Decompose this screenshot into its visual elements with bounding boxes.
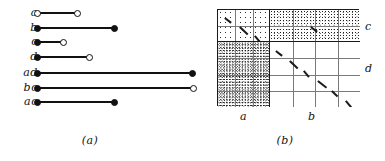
gridline-horizontal [218,91,269,92]
axis-label-c: c [365,20,372,33]
caption-a: (a) [60,134,120,147]
gridline-horizontal [270,26,360,27]
interval-endpoint-start [34,99,41,106]
interval-endpoint-start [34,85,41,92]
interval-bar [38,72,193,74]
interval-endpoint-end [111,99,118,106]
interval-row: d [0,50,200,64]
interval-endpoint-start [34,25,41,32]
gridline-horizontal [218,26,269,27]
axis-label-d: d [365,62,373,75]
interval-label: d [0,50,38,63]
diagonal-tick [239,26,248,35]
interval-label: b [0,21,38,34]
interval-endpoint-end [86,54,93,61]
grid-quadrant-ad [218,42,270,107]
gridline-horizontal [270,91,360,92]
interval-label: c [0,35,38,48]
diagonal-tick [290,60,299,69]
interval-row: bc [0,81,200,95]
gridline-horizontal [270,75,360,76]
grid-quadrant-bc [270,10,360,42]
gridline-horizontal [270,58,360,59]
panel-a-intervals: abcdadbcac (a) [0,0,200,161]
interval-bar [38,87,194,89]
interval-endpoint-start [34,54,41,61]
interval-row: ad [0,66,200,80]
axis-label-b: b [308,110,316,123]
interval-endpoint-start [34,70,41,77]
interval-label: ac [0,95,38,108]
figure-container: abcdadbcac (a) a b c d (b) [0,0,385,161]
interval-endpoint-end [74,10,81,17]
interval-endpoint-start [34,39,41,46]
diagonal-tick [276,50,283,56]
gridline-horizontal [218,75,269,76]
interval-row: ac [0,95,200,109]
interval-row: c [0,35,200,49]
gridline-horizontal [218,58,269,59]
interval-bar [38,27,115,29]
grid-quadrant-bd [270,42,360,107]
diagonal-tick [345,100,353,107]
interval-endpoint-start [34,10,41,17]
interval-bar [38,101,115,103]
interval-label: a [0,6,38,19]
grid-quadrant-ac [218,10,270,42]
axis-label-a: a [240,110,247,123]
interval-endpoint-end [60,39,67,46]
panel-b-grid: a b c d (b) [200,0,385,161]
interval-endpoint-end [190,85,197,92]
diagonal-tick [303,70,309,77]
diagonal-tick [317,80,327,88]
interval-label: bc [0,81,38,94]
diagonal-tick [225,17,232,23]
interval-endpoint-end [189,70,196,77]
interval-row: a [0,6,200,20]
grid-frame [217,9,359,106]
interval-bar [38,12,78,14]
interval-bar [38,56,90,58]
interval-label: ad [0,66,38,79]
diagonal-tick [254,35,260,42]
interval-endpoint-end [111,25,118,32]
interval-row: b [0,21,200,35]
caption-b: (b) [255,134,315,147]
